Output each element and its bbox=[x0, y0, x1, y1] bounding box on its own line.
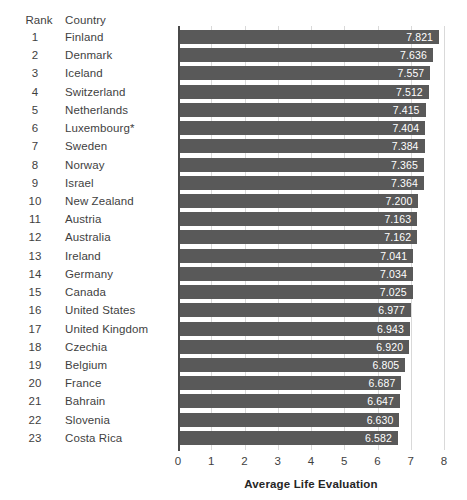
rank-cell: 11 bbox=[16, 212, 54, 226]
rank-cell: 9 bbox=[16, 176, 54, 190]
country-cell: Luxembourg* bbox=[65, 121, 175, 135]
bar-value-label: 6.630 bbox=[179, 413, 393, 427]
country-cell: Bahrain bbox=[65, 394, 175, 408]
bar-value-label: 7.404 bbox=[179, 121, 419, 135]
rank-cell: 1 bbox=[16, 30, 54, 44]
plot-area: 7.8217.6367.5577.5127.4157.4047.3847.365… bbox=[178, 26, 444, 450]
rank-cell: 6 bbox=[16, 121, 54, 135]
rank-cell: 19 bbox=[16, 358, 54, 372]
rank-cell: 7 bbox=[16, 139, 54, 153]
bar-value-label: 7.364 bbox=[179, 176, 418, 190]
country-cell: Ireland bbox=[65, 249, 175, 263]
country-cell: Israel bbox=[65, 176, 175, 190]
rank-cell: 4 bbox=[16, 85, 54, 99]
bar-value-label: 7.025 bbox=[179, 285, 407, 299]
country-cell: France bbox=[65, 376, 175, 390]
country-cell: Canada bbox=[65, 285, 175, 299]
x-tick-5: 5 bbox=[332, 455, 356, 467]
bar-value-label: 6.977 bbox=[179, 303, 405, 317]
rank-cell: 23 bbox=[16, 431, 54, 445]
bar-value-label: 6.943 bbox=[179, 322, 404, 336]
column-header-country: Country bbox=[65, 14, 106, 26]
bar-value-label: 6.647 bbox=[179, 394, 394, 408]
rank-cell: 18 bbox=[16, 340, 54, 354]
country-cell: Slovenia bbox=[65, 413, 175, 427]
country-cell: Norway bbox=[65, 158, 175, 172]
rank-cell: 22 bbox=[16, 413, 54, 427]
x-tick-0: 0 bbox=[166, 455, 190, 467]
rank-cell: 16 bbox=[16, 303, 54, 317]
x-tick-6: 6 bbox=[366, 455, 390, 467]
column-header-rank: Rank bbox=[24, 14, 54, 26]
country-cell: Austria bbox=[65, 212, 175, 226]
rank-cell: 12 bbox=[16, 230, 54, 244]
country-cell: Iceland bbox=[65, 66, 175, 80]
bar-value-label: 6.687 bbox=[179, 376, 395, 390]
rank-cell: 20 bbox=[16, 376, 54, 390]
country-cell: Belgium bbox=[65, 358, 175, 372]
country-cell: Czechia bbox=[65, 340, 175, 354]
rank-cell: 17 bbox=[16, 322, 54, 336]
bar-value-label: 7.384 bbox=[179, 139, 419, 153]
rank-cell: 14 bbox=[16, 267, 54, 281]
country-cell: Denmark bbox=[65, 48, 175, 62]
rank-cell: 5 bbox=[16, 103, 54, 117]
x-tick-7: 7 bbox=[399, 455, 423, 467]
bar-value-label: 7.162 bbox=[179, 230, 411, 244]
cropped-text-artifact bbox=[0, 0, 467, 8]
x-tick-8: 8 bbox=[432, 455, 456, 467]
bar-value-label: 7.041 bbox=[179, 249, 407, 263]
x-tick-1: 1 bbox=[199, 455, 223, 467]
country-cell: Switzerland bbox=[65, 85, 175, 99]
bar-value-label: 7.636 bbox=[179, 48, 427, 62]
country-cell: Finland bbox=[65, 30, 175, 44]
bar-value-label: 7.365 bbox=[179, 158, 418, 172]
value-axis-line bbox=[178, 26, 180, 451]
bar-value-label: 6.805 bbox=[179, 358, 399, 372]
chart-figure: Rank Country 1Finland2Denmark3Iceland4Sw… bbox=[0, 0, 467, 500]
rank-cell: 15 bbox=[16, 285, 54, 299]
bar-value-label: 6.582 bbox=[179, 431, 392, 445]
country-cell: Australia bbox=[65, 230, 175, 244]
bar-value-label: 7.200 bbox=[179, 194, 412, 208]
country-cell: Costa Rica bbox=[65, 431, 175, 445]
bar-value-label: 7.821 bbox=[179, 30, 433, 44]
rank-cell: 8 bbox=[16, 158, 54, 172]
gridline-8 bbox=[444, 26, 445, 450]
country-cell: Sweden bbox=[65, 139, 175, 153]
country-cell: United Kingdom bbox=[65, 322, 175, 336]
x-tick-3: 3 bbox=[266, 455, 290, 467]
bar-value-label: 7.557 bbox=[179, 66, 424, 80]
x-axis-title: Average Life Evaluation bbox=[178, 478, 444, 490]
rank-cell: 10 bbox=[16, 194, 54, 208]
country-cell: New Zealand bbox=[65, 194, 175, 208]
rank-cell: 3 bbox=[16, 66, 54, 80]
rank-cell: 2 bbox=[16, 48, 54, 62]
bar-value-label: 6.920 bbox=[179, 340, 403, 354]
rank-cell: 13 bbox=[16, 249, 54, 263]
bar-value-label: 7.163 bbox=[179, 212, 411, 226]
country-cell: Netherlands bbox=[65, 103, 175, 117]
bar-value-label: 7.415 bbox=[179, 103, 420, 117]
x-tick-2: 2 bbox=[233, 455, 257, 467]
x-tick-4: 4 bbox=[299, 455, 323, 467]
rank-cell: 21 bbox=[16, 394, 54, 408]
country-cell: Germany bbox=[65, 267, 175, 281]
bar-value-label: 7.512 bbox=[179, 85, 423, 99]
bar-value-label: 7.034 bbox=[179, 267, 407, 281]
country-cell: United States bbox=[65, 303, 175, 317]
